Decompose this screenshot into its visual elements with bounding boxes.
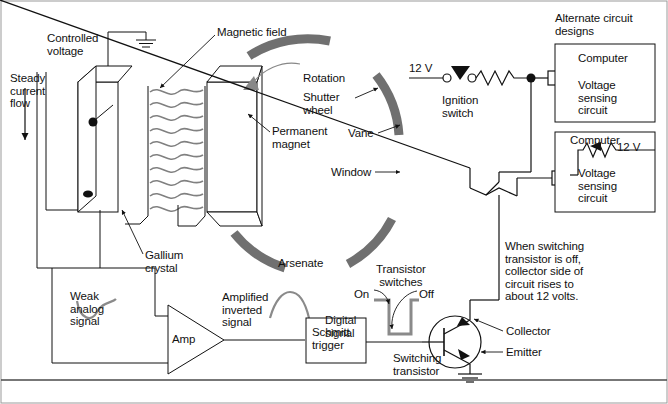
amplified-signal-wave <box>270 292 309 318</box>
label-amp: Amp <box>172 333 195 346</box>
label-alternate-circuit-designs: Alternate circuit designs <box>555 12 633 37</box>
label-rotation: Rotation <box>303 72 345 85</box>
label-off: Off <box>419 288 434 301</box>
digital-signal-pulse <box>374 300 419 334</box>
ignition-switch-circuit <box>409 66 578 85</box>
label-controlled-voltage: Controlled voltage <box>47 32 98 57</box>
note-switching-transistor-off: When switching transistor is off, collec… <box>505 240 584 303</box>
magnetic-field-lines <box>150 90 203 212</box>
diagram-canvas: Controlled voltage Steady current flow M… <box>0 0 668 404</box>
alt-circuit-1-function: Voltage sensing circuit <box>578 79 617 117</box>
label-permanent-magnet: Permanent magnet <box>272 125 327 150</box>
vane-segment <box>376 75 399 135</box>
vane-segment <box>249 39 330 56</box>
label-weak-analog-signal: Weak analog signal <box>70 290 104 328</box>
label-12v-supply: 12 V <box>409 62 432 75</box>
label-switching-transistor: Switching transistor <box>393 352 441 377</box>
alt-circuit-2-function: Voltage sensing circuit <box>578 167 617 205</box>
label-vane: Vane <box>348 127 374 140</box>
label-on: On <box>354 288 369 301</box>
label-magnetic-field: Magnetic field <box>217 26 287 39</box>
label-amplified-inverted-signal: Amplified inverted signal <box>222 291 268 329</box>
label-gallium-crystal: Gallium crystal <box>145 249 183 274</box>
label-arsenate: Arsenate <box>278 257 323 270</box>
alt-circuit-2-voltage: 12 V <box>617 141 640 154</box>
alt-circuit-1-computer: Computer <box>578 52 628 65</box>
label-collector: Collector <box>506 325 550 338</box>
label-shutter-wheel: Shutter wheel <box>303 91 339 116</box>
gallium-arsenate-crystal <box>78 66 132 212</box>
label-digital-signal: Digital signal <box>325 314 356 339</box>
label-transistor-switches: Transistor switches <box>376 263 426 288</box>
vane-segment <box>348 219 392 264</box>
label-emitter: Emitter <box>506 346 542 359</box>
label-window: Window <box>331 166 371 179</box>
label-steady-current-flow: Steady current flow <box>10 72 45 110</box>
label-ignition-switch: Ignition switch <box>442 94 478 119</box>
alt-circuit-2-computer: Computer <box>570 134 620 147</box>
